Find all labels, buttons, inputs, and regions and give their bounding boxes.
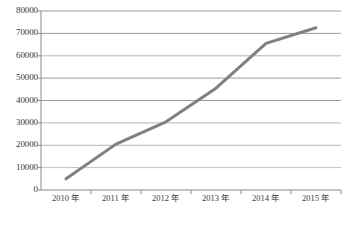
data-line-series-1 xyxy=(66,28,316,179)
line-chart: 80000 70000 60000 50000 40000 30000 2000… xyxy=(0,0,346,227)
x-axis-tick-label-2015: 2015 年 xyxy=(291,194,341,203)
x-axis-tick-label-2013: 2013 年 xyxy=(191,194,241,203)
x-axis-tick-label-2014: 2014 年 xyxy=(241,194,291,203)
x-axis-tick-label-2012: 2012 年 xyxy=(141,194,191,203)
x-axis-tick-label-2010: 2010 年 xyxy=(41,194,91,203)
x-axis-tick-label-2011: 2011 年 xyxy=(91,194,141,203)
y-axis-ticks xyxy=(37,11,41,190)
